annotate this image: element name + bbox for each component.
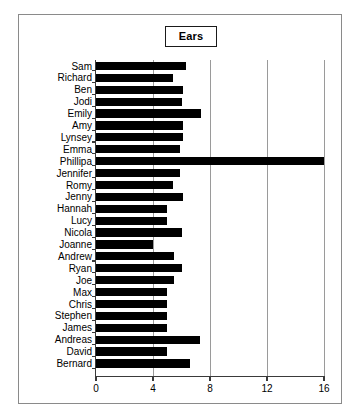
- category-label: Bernard: [56, 358, 92, 370]
- bar: [96, 347, 167, 355]
- bar-row: David: [0, 346, 360, 358]
- category-label: Max: [73, 287, 92, 299]
- category-label: Stephen: [55, 310, 92, 322]
- plot-area: SamRichardBenJodiEmilyAmyLynseyEmmaPhill…: [0, 0, 360, 420]
- x-tick-mark: [95, 376, 96, 381]
- bar-row: James: [0, 322, 360, 334]
- bar-row: Ben: [0, 84, 360, 96]
- category-label: Sam: [71, 61, 92, 73]
- bar-row: Jenny: [0, 191, 360, 203]
- x-tick-mark: [323, 376, 324, 381]
- bar: [96, 276, 174, 284]
- category-label: Emily: [68, 108, 92, 120]
- x-tick-mark: [209, 376, 210, 381]
- bar: [96, 336, 200, 344]
- category-label: Andreas: [55, 334, 92, 346]
- bar: [96, 217, 167, 225]
- bar-row: Romy: [0, 180, 360, 192]
- category-label: Jennifer: [56, 168, 92, 180]
- category-label: Jodi: [74, 96, 92, 108]
- bar-row: Nicola: [0, 227, 360, 239]
- bar: [96, 145, 180, 153]
- y-axis-line: [95, 60, 96, 377]
- bar: [96, 181, 173, 189]
- bar-row: Amy: [0, 120, 360, 132]
- bar: [96, 98, 182, 106]
- category-label: Joe: [76, 275, 92, 287]
- category-label: Chris: [69, 299, 92, 311]
- x-tick-label: 0: [93, 383, 99, 394]
- category-label: Phillipa: [60, 156, 92, 168]
- bar: [96, 157, 324, 165]
- bar: [96, 133, 183, 141]
- x-tick-label: 12: [261, 383, 272, 394]
- category-label: Andrew: [58, 251, 92, 263]
- category-label: Ryan: [69, 263, 92, 275]
- bar-row: Max: [0, 287, 360, 299]
- bar-row: Jodi: [0, 96, 360, 108]
- bar-row: Richard: [0, 72, 360, 84]
- bar-row: Sam: [0, 61, 360, 73]
- bar-row: Andreas: [0, 334, 360, 346]
- category-label: Ben: [74, 84, 92, 96]
- x-tick-label: 16: [318, 383, 329, 394]
- bar-row: Joe: [0, 275, 360, 287]
- bar: [96, 300, 167, 308]
- bar-row: Jennifer: [0, 168, 360, 180]
- bar: [96, 252, 174, 260]
- bar: [96, 121, 183, 129]
- category-label: Hannah: [57, 203, 92, 215]
- bar: [96, 264, 182, 272]
- bar-row: Emma: [0, 144, 360, 156]
- category-label: Lynsey: [61, 132, 92, 144]
- bar-row: Phillipa: [0, 156, 360, 168]
- category-label: Joanne: [59, 239, 92, 251]
- bar: [96, 324, 167, 332]
- bar-row: Chris: [0, 299, 360, 311]
- bar: [96, 62, 186, 70]
- chart-figure: Ears SamRichardBenJodiEmilyAmyLynseyEmma…: [0, 0, 360, 420]
- bar: [96, 228, 182, 236]
- bar-row: Andrew: [0, 251, 360, 263]
- bar-row: Hannah: [0, 203, 360, 215]
- category-label: David: [66, 346, 92, 358]
- bar: [96, 240, 153, 248]
- category-label: Nicola: [64, 227, 92, 239]
- bar-row: Lucy: [0, 215, 360, 227]
- bar: [96, 205, 167, 213]
- x-tick-label: 4: [150, 383, 156, 394]
- x-tick-label: 8: [207, 383, 213, 394]
- category-label: Lucy: [71, 215, 92, 227]
- bar-row: Joanne: [0, 239, 360, 251]
- category-label: Emma: [63, 144, 92, 156]
- category-label: Amy: [72, 120, 92, 132]
- bar: [96, 288, 167, 296]
- bar-row: Ryan: [0, 263, 360, 275]
- bar: [96, 359, 190, 367]
- bar: [96, 312, 167, 320]
- x-tick-mark: [266, 376, 267, 381]
- x-tick-mark: [152, 376, 153, 381]
- bar: [96, 109, 201, 117]
- category-label: Jenny: [65, 191, 92, 203]
- bar: [96, 193, 183, 201]
- category-label: Richard: [58, 72, 92, 84]
- bar: [96, 86, 183, 94]
- bar-row: Emily: [0, 108, 360, 120]
- bar: [96, 169, 180, 177]
- bar-row: Bernard: [0, 358, 360, 370]
- category-label: James: [63, 322, 92, 334]
- bar: [96, 74, 173, 82]
- bar-row: Lynsey: [0, 132, 360, 144]
- category-label: Romy: [66, 180, 92, 192]
- bar-row: Stephen: [0, 310, 360, 322]
